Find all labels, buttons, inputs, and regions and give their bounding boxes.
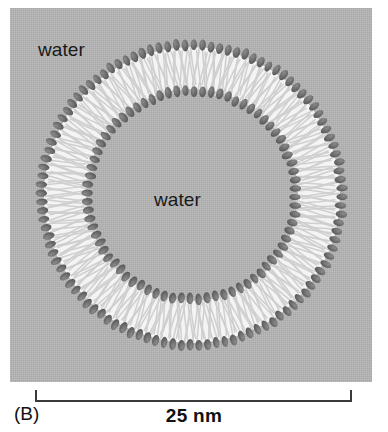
diagram-panel: water water xyxy=(10,8,372,382)
scale-bar-label: 25 nm xyxy=(0,405,388,427)
figure-liposome: water water 25 nm (B) xyxy=(0,0,388,432)
label-water-outer: water xyxy=(38,39,85,61)
label-water-inner: water xyxy=(154,189,201,211)
scale-bar-tick-right xyxy=(350,390,352,402)
scale-bar xyxy=(35,390,352,402)
panel-letter-label: (B) xyxy=(14,403,39,425)
scale-bar-line xyxy=(35,400,352,402)
